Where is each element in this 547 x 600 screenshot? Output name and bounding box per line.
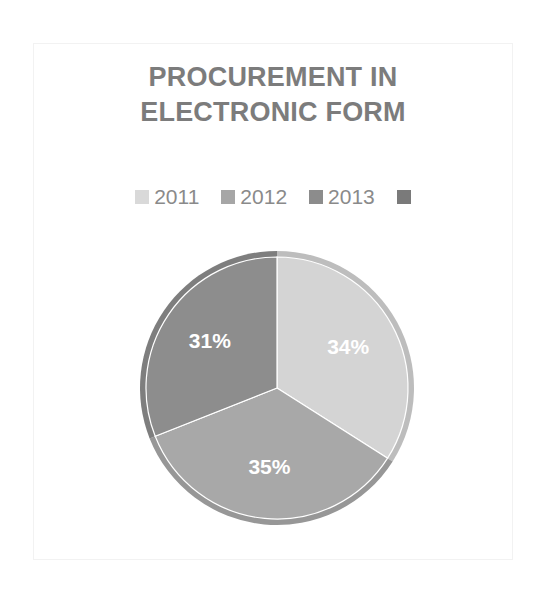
legend-swatch-icon (309, 190, 323, 204)
legend-swatch-icon (135, 190, 149, 204)
pie-slice-label: 31% (189, 329, 231, 352)
pie-chart-svg: 34%35%31% (138, 249, 416, 527)
pie-slice-label: 35% (248, 455, 290, 478)
legend-label: 2011 (154, 186, 199, 207)
legend-swatch-icon (397, 190, 411, 204)
legend-label: 2012 (240, 186, 287, 207)
legend-item-2013[interactable]: 2013 (309, 186, 375, 207)
pie-chart: 34%35%31% (138, 249, 416, 527)
legend-item-2012[interactable]: 2012 (221, 186, 287, 207)
chart-legend: 2011 2012 2013 (33, 186, 513, 207)
pie-slice-label: 34% (327, 335, 369, 358)
legend-swatch-icon (221, 190, 235, 204)
chart-title: PROCUREMENT IN ELECTRONIC FORM (33, 60, 513, 130)
legend-item-extra[interactable] (397, 190, 411, 204)
pie-slices (146, 257, 408, 519)
legend-item-2011[interactable]: 2011 (135, 186, 199, 207)
legend-label: 2013 (328, 186, 375, 207)
